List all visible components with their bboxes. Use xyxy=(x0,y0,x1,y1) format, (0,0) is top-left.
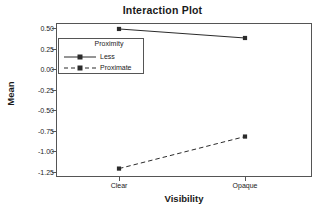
y-axis-tick-label: -0.25 xyxy=(24,86,54,93)
data-point-marker xyxy=(243,134,247,138)
y-axis-tick-label: -1.25 xyxy=(24,168,54,175)
legend-item-label: Less xyxy=(100,53,115,60)
y-axis-tick-label: 0.25 xyxy=(24,45,54,52)
y-axis-tick-label: 0.00 xyxy=(24,66,54,73)
x-axis-tick-mark xyxy=(119,177,120,181)
y-axis-tick-label-group: 0.50 0.25 0.00 -0.25 -0.50 -0.75 -1.00 -… xyxy=(20,0,54,210)
x-axis-title: Visibility xyxy=(56,193,312,204)
series-proximate-line xyxy=(119,137,245,169)
data-point-marker xyxy=(117,27,121,31)
y-axis-tick-label: -0.50 xyxy=(24,107,54,114)
legend: Proximity Less Proximate xyxy=(58,38,144,74)
interaction-plot-screenshot: Interaction Plot Mean 0.50 0.25 0.00 -0.… xyxy=(0,0,325,210)
legend-line-sample-solid xyxy=(62,52,98,62)
y-axis-tick-label: -0.75 xyxy=(24,127,54,134)
x-axis-tick-mark xyxy=(245,177,246,181)
y-axis-title: Mean xyxy=(5,71,16,117)
legend-title: Proximity xyxy=(59,40,145,47)
y-axis-tick-label: 0.50 xyxy=(24,25,54,32)
legend-item-less: Less xyxy=(62,51,142,62)
legend-item-proximate: Proximate xyxy=(62,62,142,73)
x-axis-tick-label: Clear xyxy=(111,182,128,189)
data-point-marker xyxy=(117,166,121,170)
y-axis-tick-label: -1.00 xyxy=(24,148,54,155)
series-less-line xyxy=(119,29,245,38)
legend-item-label: Proximate xyxy=(100,64,132,71)
x-axis-tick-label: Opaque xyxy=(233,182,258,189)
series-proximate xyxy=(117,134,247,170)
legend-line-sample-dashed xyxy=(62,63,98,73)
data-point-marker xyxy=(243,36,247,40)
